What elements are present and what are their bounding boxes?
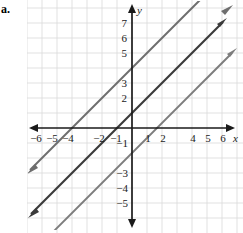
y-tick-5: 5	[122, 47, 128, 59]
y-tick--1: −1	[116, 137, 128, 149]
graph-svg: y x −6 −5 −4 −2 −1 1 2 4 5 6 7 6 5 3	[27, 0, 243, 233]
x-tick--2: −2	[93, 132, 105, 144]
y-tick--5: −5	[116, 197, 128, 209]
y-tick-2: 2	[122, 92, 128, 104]
y-tick-7: 7	[122, 17, 128, 29]
x-tick--6: −6	[30, 132, 42, 144]
y-tick--3: −3	[116, 167, 128, 179]
x-axis-label: x	[232, 132, 238, 144]
y-axis-label: y	[136, 4, 142, 16]
x-tick--5: −5	[46, 132, 58, 144]
x-tick-5: 5	[205, 132, 211, 144]
x-tick--4: −4	[62, 132, 74, 144]
part-label: a.	[1, 2, 10, 17]
y-tick-3: 3	[122, 77, 128, 89]
x-tick-2: 2	[160, 132, 166, 144]
figure-container: a.	[0, 0, 243, 233]
y-tick-6: 6	[122, 32, 128, 44]
x-tick-6: 6	[220, 132, 226, 144]
y-tick--4: −4	[116, 182, 128, 194]
coordinate-plane: y x −6 −5 −4 −2 −1 1 2 4 5 6 7 6 5 3	[27, 0, 243, 233]
x-tick-4: 4	[190, 132, 196, 144]
x-tick-1: 1	[145, 132, 151, 144]
